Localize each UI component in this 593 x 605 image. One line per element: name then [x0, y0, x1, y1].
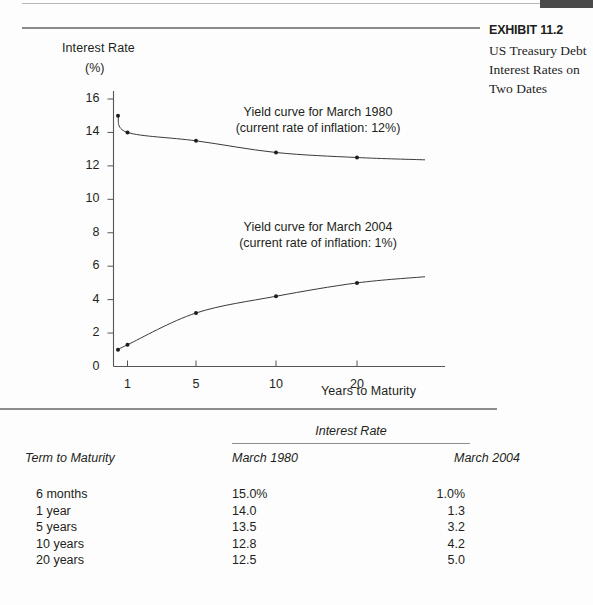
table-row: 5 years13.53.2	[0, 520, 593, 536]
data-point-0-2	[194, 139, 198, 143]
exhibit-page: EXHIBIT 11.2 US Treasury Debt Interest R…	[0, 0, 593, 605]
exhibit-description: US Treasury Debt Interest Rates on Two D…	[489, 41, 589, 98]
annotation-march-2004: Yield curve for March 2004 (current rate…	[196, 219, 440, 251]
cell-rate-march-2004: 5.0	[370, 553, 520, 567]
annotation-1980-line2: (current rate of inflation: 12%)	[196, 120, 440, 136]
data-point-1-0	[116, 348, 120, 352]
table-group-header: Interest Rate	[232, 424, 470, 438]
data-point-1-3	[274, 294, 278, 298]
interest-rate-table: Interest Rate Term to Maturity March 198…	[0, 408, 593, 605]
data-point-1-2	[194, 311, 198, 315]
cell-rate-march-2004: 1.0%	[370, 487, 520, 501]
table-bottom-rule	[0, 409, 497, 410]
cell-rate-march-1980: 15.0%	[232, 487, 322, 501]
data-point-0-4	[355, 156, 359, 160]
annotation-march-1980: Yield curve for March 1980 (current rate…	[196, 104, 440, 136]
table-header-term: Term to Maturity	[25, 451, 115, 465]
annotation-2004-line1: Yield curve for March 2004	[196, 219, 440, 235]
cell-term-to-maturity: 10 years	[36, 537, 146, 551]
cell-term-to-maturity: 6 months	[36, 487, 146, 501]
data-point-0-1	[126, 130, 130, 134]
table-header-march-1980: March 1980	[232, 451, 298, 465]
plot-canvas	[0, 0, 470, 405]
table-row: 20 years12.55.0	[0, 553, 593, 569]
cell-rate-march-2004: 3.2	[370, 520, 520, 534]
data-point-1-1	[126, 343, 130, 347]
exhibit-number: EXHIBIT 11.2	[489, 21, 589, 40]
table-row: 1 year14.01.3	[0, 504, 593, 520]
cell-rate-march-1980: 13.5	[232, 520, 322, 534]
table-group-rule	[232, 443, 470, 444]
series-line-march-2004	[118, 277, 425, 350]
table-header-march-2004: March 2004	[370, 451, 520, 465]
data-point-0-0	[116, 114, 120, 118]
data-point-0-3	[274, 151, 278, 155]
data-point-1-4	[355, 281, 359, 285]
cell-rate-march-1980: 14.0	[232, 504, 322, 518]
corner-block-decoration	[540, 0, 593, 8]
cell-rate-march-1980: 12.5	[232, 553, 322, 567]
annotation-2004-line2: (current rate of inflation: 1%)	[196, 235, 440, 251]
cell-rate-march-2004: 4.2	[370, 537, 520, 551]
exhibit-caption: EXHIBIT 11.2 US Treasury Debt Interest R…	[489, 21, 589, 98]
cell-term-to-maturity: 1 year	[36, 504, 146, 518]
annotation-1980-line1: Yield curve for March 1980	[196, 104, 440, 120]
yield-curve-chart: Interest Rate (%) Years to Maturity 0246…	[0, 0, 470, 405]
cell-rate-march-2004: 1.3	[370, 504, 520, 518]
cell-term-to-maturity: 5 years	[36, 520, 146, 534]
cell-term-to-maturity: 20 years	[36, 553, 146, 567]
cell-rate-march-1980: 12.8	[232, 537, 322, 551]
table-row: 6 months15.0%1.0%	[0, 487, 593, 503]
table-row: 10 years12.84.2	[0, 537, 593, 553]
